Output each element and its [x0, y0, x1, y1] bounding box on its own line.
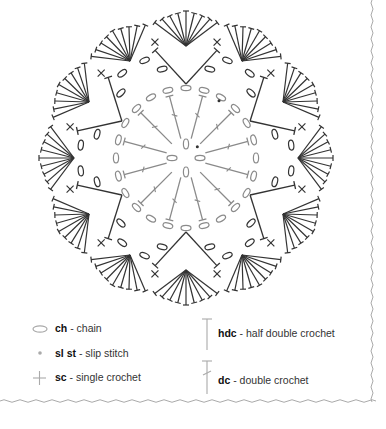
legend-item-double-crochet: dc - double crochet [218, 374, 309, 386]
single-crochet-icon [33, 371, 46, 385]
legend-name: half double crochet [246, 327, 335, 339]
legend-sep: - [76, 347, 85, 359]
legend-name: single crochet [76, 371, 141, 383]
chain-icon [33, 326, 47, 332]
legend-abbr: dc [218, 374, 230, 386]
legend-abbr: sl st [55, 347, 76, 359]
legend-name: double crochet [240, 374, 309, 386]
legend-abbr: ch [55, 322, 67, 334]
inner-rounds [113, 85, 258, 230]
legend-sep: - [67, 322, 76, 334]
legend-abbr: sc [55, 371, 67, 383]
double-crochet-icon [202, 361, 212, 394]
legend-sep: - [230, 374, 239, 386]
crochet-diagram [0, 0, 386, 429]
legend-item-half-double-crochet: hdc - half double crochet [218, 327, 335, 339]
legend-sep: - [237, 327, 246, 339]
legend-item-slip-stitch: sl st - slip stitch [55, 347, 129, 359]
slip-stitch-icon [38, 351, 42, 355]
half-double-crochet-icon [202, 319, 212, 350]
legend-item-single-crochet: sc - single crochet [55, 371, 141, 383]
outer-rounds [39, 11, 333, 305]
legend-item-chain: ch - chain [55, 322, 102, 334]
legend-abbr: hdc [218, 327, 237, 339]
legend-name: slip stitch [85, 347, 128, 359]
legend-sep: - [67, 371, 76, 383]
legend-name: chain [77, 322, 102, 334]
